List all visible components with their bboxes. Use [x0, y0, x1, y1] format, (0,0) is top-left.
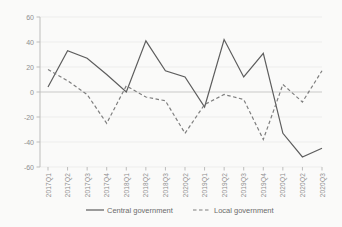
x-tick-label: 2020Q2	[182, 173, 190, 198]
local-government-legend-label: Local government	[214, 206, 275, 215]
x-axis-tick-labels: 2017Q12017Q22017Q32017Q42018Q12018Q22018…	[45, 173, 327, 198]
local-government-line	[48, 70, 322, 140]
y-tick-label: 60	[26, 14, 34, 21]
y-tick-label: -20	[24, 114, 34, 121]
x-tick-label: 2017Q2	[64, 173, 72, 198]
x-tick-label: 2018Q1	[123, 173, 131, 198]
y-axis-tick-labels: 6040200-20-40-60	[24, 14, 34, 171]
x-tick-label: 2020Q3	[319, 173, 327, 198]
x-tick-label: 2019Q1	[201, 173, 209, 198]
y-tick-label: 0	[30, 89, 34, 96]
y-tick-label: 40	[26, 39, 34, 46]
x-tick-label: 2020Q1	[279, 173, 287, 198]
gridlines	[40, 17, 322, 167]
x-tick-label: 2017Q4	[103, 173, 111, 198]
x-tick-label: 2019Q4	[260, 173, 268, 198]
x-tick-label: 2019Q3	[240, 173, 248, 198]
legend: Central government Local government	[86, 206, 275, 215]
x-tick-label: 2019Q2	[221, 173, 229, 198]
x-tick-label: 2017Q3	[84, 173, 92, 198]
y-tick-label: -60	[24, 164, 34, 171]
y-tick-label: 20	[26, 64, 34, 71]
chart-canvas: 6040200-20-40-60 2017Q12017Q22017Q32017Q…	[0, 0, 342, 227]
y-tick-label: -40	[24, 139, 34, 146]
line-chart-figure: 6040200-20-40-60 2017Q12017Q22017Q32017Q…	[0, 0, 342, 227]
central-government-legend-label: Central government	[107, 206, 174, 215]
x-tick-label: 2020Q2	[299, 173, 307, 198]
x-tick-label: 2018Q2	[142, 173, 150, 198]
x-tick-label: 2017Q1	[45, 173, 53, 198]
x-tick-label: 2018Q3	[162, 173, 170, 198]
data-series	[48, 40, 322, 158]
